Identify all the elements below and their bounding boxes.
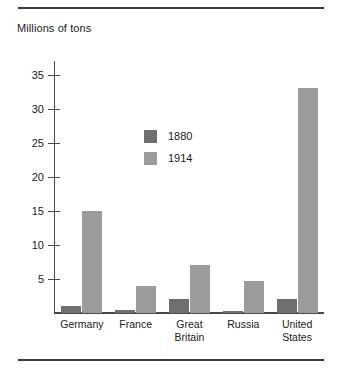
bar-1914-united-states [298, 88, 318, 313]
legend-label: 1914 [168, 153, 192, 164]
bar-1880-great-britain [169, 299, 189, 313]
x-axis-label-germany: Germany [55, 318, 109, 331]
x-axis-label-line: Germany [55, 318, 109, 331]
x-axis-label-line: United [270, 318, 324, 331]
bar-chart-plot-area: 5101520253035 GermanyFranceGreatBritainR… [18, 52, 324, 322]
legend-swatch-icon [144, 130, 157, 143]
y-axis-title: Millions of tons [17, 22, 91, 34]
bar-group [163, 61, 217, 313]
y-axis-tick-label: 20 [18, 172, 44, 183]
chart-legend: 18801914 [144, 127, 192, 171]
legend-item-1914: 1914 [144, 149, 192, 167]
y-axis-tick-label: 10 [18, 240, 44, 251]
x-axis-label-line: Russia [216, 318, 270, 331]
bar-group [55, 61, 109, 313]
bar-1880-france [115, 310, 135, 313]
bottom-divider-rule [18, 359, 324, 361]
x-axis-label-russia: Russia [216, 318, 270, 331]
bar-1880-russia [223, 311, 243, 313]
bar-1914-great-britain [190, 265, 210, 313]
bar-1914-russia [244, 281, 264, 313]
x-axis-category-labels: GermanyFranceGreatBritainRussiaUnitedSta… [55, 318, 324, 364]
bar-group [270, 61, 324, 313]
y-axis-tick-label: 5 [18, 274, 44, 285]
bar-1880-germany [61, 306, 81, 313]
x-axis-label-line: France [109, 318, 163, 331]
x-axis-label-great-britain: GreatBritain [163, 318, 217, 344]
bar-group [109, 61, 163, 313]
y-axis-tick-label: 35 [18, 70, 44, 81]
x-axis-label-line: States [270, 331, 324, 344]
legend-label: 1880 [168, 131, 192, 142]
bar-group [216, 61, 270, 313]
legend-swatch-icon [144, 152, 157, 165]
x-axis-label-line: Britain [163, 331, 217, 344]
bar-1914-france [136, 286, 156, 313]
y-axis-tick-label: 25 [18, 138, 44, 149]
x-axis-label-france: France [109, 318, 163, 331]
x-axis-label-line: Great [163, 318, 217, 331]
bar-1914-germany [82, 211, 102, 313]
y-axis-tick-label: 30 [18, 104, 44, 115]
top-divider-rule [18, 7, 324, 9]
x-axis-label-united-states: UnitedStates [270, 318, 324, 344]
y-axis-tick-label: 15 [18, 206, 44, 217]
legend-item-1880: 1880 [144, 127, 192, 145]
bar-1880-united-states [277, 299, 297, 313]
bars-layer [55, 61, 324, 313]
